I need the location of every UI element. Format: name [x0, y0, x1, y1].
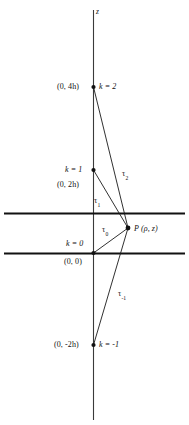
label-index-k0: k = 0 [66, 240, 83, 248]
label-tau-0: τ0 [102, 226, 108, 236]
tau-m1-subscript: -1 [121, 295, 126, 301]
geometry-figure: z (0, 4h) k = 2 k = 1 (0, 2h) k = 0 (0, … [0, 0, 189, 425]
label-index-k1: k = 1 [65, 166, 82, 174]
label-coord-k1: (0, 2h) [57, 181, 79, 189]
label-coord-k0: (0, 0) [64, 258, 82, 266]
label-tau-1: τ1 [94, 197, 100, 207]
tau-1-subscript: 1 [97, 202, 100, 208]
tau-2-subscript: 2 [125, 175, 128, 181]
label-coord-km1: (0, -2h) [54, 341, 79, 349]
tau-0-subscript: 0 [105, 231, 108, 237]
point-dot-k1 [91, 168, 95, 172]
point-dot-k2 [91, 85, 95, 89]
point-dot-km1 [91, 343, 95, 347]
point-dot-k0 [91, 251, 95, 255]
label-index-k2: k = 2 [99, 83, 116, 91]
ray-tau-0 [94, 228, 129, 253]
ray-tau-minus-1 [94, 228, 129, 345]
label-tau-minus-1: τ-1 [118, 290, 126, 300]
point-dot-P [126, 226, 131, 231]
label-index-km1: k = -1 [99, 341, 119, 349]
label-coord-k2: (0, 4h) [57, 83, 79, 91]
label-point-p: P (ρ, z) [134, 225, 158, 233]
z-axis-label: z [96, 7, 99, 16]
label-tau-2: τ2 [122, 170, 128, 180]
figure-canvas [0, 0, 189, 425]
